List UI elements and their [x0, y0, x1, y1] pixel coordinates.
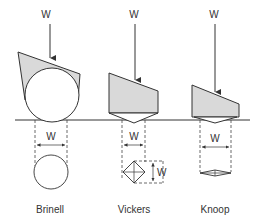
brinell-ball-indenter — [25, 68, 79, 122]
brinell-width-label: W — [46, 131, 56, 142]
knoop-width-label: W — [210, 133, 220, 144]
knoop-caption: Knoop — [201, 204, 230, 215]
vickers-width-label: W — [129, 131, 139, 142]
knoop-load-label: W — [209, 9, 219, 20]
vickers-test: W W W Vickers — [109, 9, 167, 215]
brinell-impression — [34, 155, 68, 189]
knoop-impression — [200, 170, 231, 176]
vickers-caption: Vickers — [118, 204, 151, 215]
vickers-pyramid-tip — [109, 113, 158, 123]
hardness-test-diagram: W W Brinell W W — [0, 0, 255, 222]
vickers-indenter-holder — [109, 73, 158, 113]
vickers-depth-label: W — [157, 167, 167, 178]
vickers-impression — [123, 161, 145, 183]
brinell-test: W W Brinell — [18, 9, 80, 215]
brinell-load-label: W — [41, 9, 51, 20]
brinell-caption: Brinell — [36, 204, 64, 215]
knoop-test: W W Knoop — [192, 9, 239, 215]
vickers-load-label: W — [129, 9, 139, 20]
